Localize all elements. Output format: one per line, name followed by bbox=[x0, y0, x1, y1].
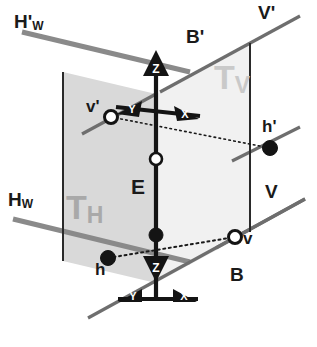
label-hw-prime-base: H bbox=[14, 11, 28, 32]
svg-text:Y: Y bbox=[129, 290, 137, 302]
plane-label-th-sub: H bbox=[87, 202, 104, 228]
label-point-v-prime: v' bbox=[86, 98, 100, 115]
label-v-prime: V' bbox=[258, 3, 275, 22]
diagram-canvas: Z Z Y X Y X bbox=[0, 0, 317, 347]
svg-text:Z: Z bbox=[152, 261, 159, 275]
label-b: B bbox=[230, 265, 244, 284]
svg-text:Y: Y bbox=[128, 103, 136, 115]
point-v-marker[interactable] bbox=[229, 231, 242, 244]
point-e-upper-marker[interactable] bbox=[150, 153, 162, 165]
label-segment-e: E bbox=[131, 176, 145, 197]
svg-text:X: X bbox=[181, 108, 189, 120]
label-b-prime: B' bbox=[186, 27, 204, 46]
plane-label-tv-sub: V bbox=[235, 72, 250, 98]
plane-label-tv: TV bbox=[214, 60, 250, 97]
label-b-prime-mark: ' bbox=[200, 26, 205, 47]
label-b-base: B bbox=[230, 264, 244, 285]
label-hw-base: H bbox=[8, 189, 22, 210]
plane-label-th-base: T bbox=[66, 188, 87, 226]
plane-label-tv-base: T bbox=[214, 58, 235, 96]
ground-line-hw-prime bbox=[22, 32, 190, 72]
point-h-prime-marker[interactable] bbox=[263, 141, 278, 156]
plane-label-th: TH bbox=[66, 190, 103, 227]
label-b-prime-base: B bbox=[186, 26, 200, 47]
label-hw-prime: H'W bbox=[14, 12, 44, 32]
label-v-prime-base: V bbox=[258, 2, 271, 23]
point-e-lower-marker[interactable] bbox=[149, 228, 163, 242]
svg-text:X: X bbox=[180, 290, 188, 302]
point-v-prime-marker[interactable] bbox=[105, 111, 118, 124]
label-point-h: h bbox=[95, 261, 105, 278]
svg-text:Z: Z bbox=[152, 62, 159, 76]
label-point-h-prime: h' bbox=[262, 118, 276, 135]
label-hw: HW bbox=[8, 190, 33, 210]
label-v-prime-mark: ' bbox=[271, 2, 276, 23]
geometry-svg: Z Z Y X Y X bbox=[0, 0, 317, 347]
label-v: V bbox=[265, 182, 278, 201]
label-point-v: v bbox=[243, 230, 252, 247]
label-hw-sub: W bbox=[22, 197, 33, 211]
label-v-base: V bbox=[265, 181, 278, 202]
label-hw-prime-sub: W bbox=[32, 19, 43, 33]
